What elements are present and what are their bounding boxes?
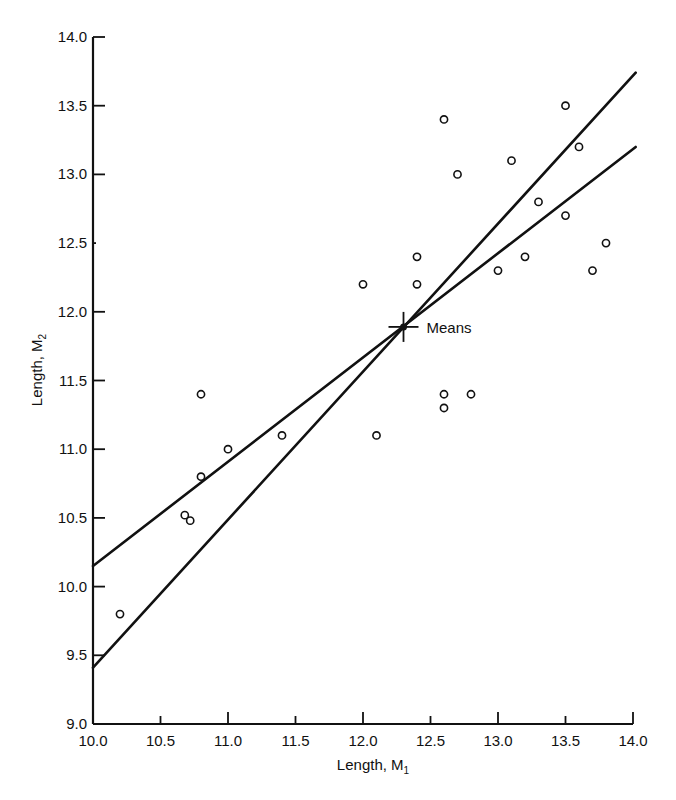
data-point-marker <box>440 404 447 411</box>
y-tick-label: 11.5 <box>59 372 87 389</box>
means-center-dot <box>400 323 407 330</box>
data-point-marker <box>359 281 366 288</box>
data-point-marker <box>575 143 582 150</box>
x-tick-label: 12.0 <box>348 732 377 749</box>
regression-line-steep <box>93 73 636 668</box>
axes: 10.010.511.011.512.012.513.013.514.09.09… <box>58 28 648 749</box>
x-axis-label: Length, M1 <box>337 756 410 776</box>
data-point-marker <box>224 446 231 453</box>
scatter-chart: 10.010.511.011.512.012.513.013.514.09.09… <box>0 0 676 800</box>
data-point-marker <box>197 391 204 398</box>
y-tick-label: 14.0 <box>58 28 87 45</box>
data-point-marker <box>413 281 420 288</box>
data-point-marker <box>373 432 380 439</box>
data-point-marker <box>508 157 515 164</box>
x-tick-label: 11.5 <box>281 732 309 749</box>
y-tick-label: 12.5 <box>58 234 87 251</box>
data-point-marker <box>602 240 609 247</box>
data-point-marker <box>562 102 569 109</box>
y-tick-label: 13.5 <box>58 97 87 114</box>
y-axis-label: Length, M2 <box>28 333 48 406</box>
y-tick-label: 10.5 <box>58 509 87 526</box>
regression-line-shallow <box>93 147 636 566</box>
data-point-marker <box>535 198 542 205</box>
data-points <box>116 102 609 618</box>
data-point-marker <box>521 253 528 260</box>
y-tick-label: 12.0 <box>58 303 87 320</box>
y-tick-label: 9.5 <box>66 646 87 663</box>
annotations: Means <box>389 312 472 342</box>
data-point-marker <box>440 391 447 398</box>
y-tick-label: 13.0 <box>58 165 87 182</box>
axis-labels: Length, M1Length, M2 <box>28 333 410 776</box>
data-point-marker <box>116 610 123 617</box>
data-point-marker <box>494 267 501 274</box>
x-tick-label: 13.0 <box>483 732 512 749</box>
data-point-marker <box>589 267 596 274</box>
means-label: Means <box>427 319 472 336</box>
data-point-marker <box>413 253 420 260</box>
x-tick-label: 10.0 <box>78 732 107 749</box>
x-tick-label: 12.5 <box>416 732 445 749</box>
x-tick-label: 13.5 <box>551 732 580 749</box>
regression-lines <box>93 73 636 668</box>
x-tick-label: 11.0 <box>214 732 242 749</box>
y-tick-label: 10.0 <box>58 578 87 595</box>
data-point-marker <box>197 473 204 480</box>
data-point-marker <box>454 171 461 178</box>
y-tick-label: 11.0 <box>59 440 87 457</box>
x-tick-label: 14.0 <box>618 732 647 749</box>
data-point-marker <box>440 116 447 123</box>
data-point-marker <box>278 432 285 439</box>
data-point-marker <box>187 517 194 524</box>
x-tick-label: 10.5 <box>146 732 175 749</box>
data-point-marker <box>562 212 569 219</box>
data-point-marker <box>467 391 474 398</box>
y-tick-label: 9.0 <box>66 715 87 732</box>
